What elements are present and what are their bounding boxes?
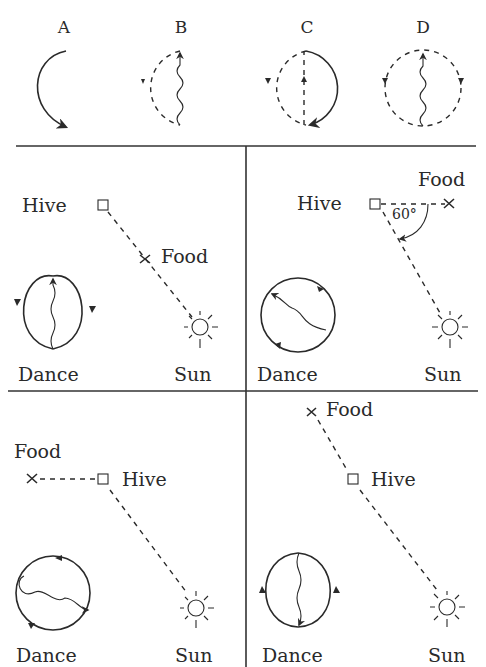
panel-a: A xyxy=(37,17,70,127)
hive-label: Hive xyxy=(297,192,342,214)
arrow-icon xyxy=(382,78,388,84)
panel-label-a: A xyxy=(57,17,71,37)
hive-label: Hive xyxy=(371,468,416,490)
dashed-left-c xyxy=(277,51,306,125)
food-hive-line xyxy=(318,420,347,470)
dance-label: Dance xyxy=(18,363,79,385)
dance-arc-a xyxy=(37,51,66,127)
dance-label: Dance xyxy=(16,644,77,666)
sun-icon xyxy=(432,311,468,348)
dance-figure xyxy=(259,553,340,627)
dance-figure xyxy=(14,276,96,349)
dance-figure xyxy=(16,555,90,630)
panel-c: C xyxy=(265,17,338,125)
food-label: Food xyxy=(418,168,465,190)
arrow-icon xyxy=(458,78,464,84)
sun-icon xyxy=(430,591,465,627)
quadrant-top-left: Hive Food Sun Dance xyxy=(14,194,218,385)
waggle-run-b xyxy=(177,53,183,125)
food-label: Food xyxy=(326,398,373,420)
arrow-icon xyxy=(141,79,145,84)
arrow-icon xyxy=(89,306,96,313)
panel-label-c: C xyxy=(300,17,313,37)
sun-label: Sun xyxy=(175,644,213,666)
hive-label: Hive xyxy=(22,194,67,216)
panel-label-d: D xyxy=(416,17,430,37)
bee-dance-diagram: A B C D Hive Food Sun xyxy=(0,0,486,667)
hive-icon xyxy=(98,474,108,484)
panel-b: B xyxy=(141,17,187,125)
dashed-return-b xyxy=(151,51,180,125)
arrow-icon xyxy=(14,299,21,306)
hive-icon xyxy=(348,474,358,484)
sun-icon xyxy=(184,311,218,348)
food-marker-icon xyxy=(140,255,150,263)
sun-icon xyxy=(180,591,214,628)
arrow-icon xyxy=(333,586,340,593)
arrow-icon xyxy=(28,623,35,629)
food-marker-icon xyxy=(27,474,37,483)
sun-label: Sun xyxy=(428,644,466,666)
arrow-icon xyxy=(259,586,266,593)
hive-sun-line xyxy=(383,212,440,313)
food-marker-icon xyxy=(444,199,454,208)
waggle-run-d xyxy=(420,54,426,126)
dance-label: Dance xyxy=(262,644,323,666)
dance-label: Dance xyxy=(257,363,318,385)
hive-icon xyxy=(98,200,108,210)
panel-label-b: B xyxy=(175,17,188,37)
food-label: Food xyxy=(14,440,61,462)
food-marker-icon xyxy=(307,408,316,416)
quadrant-bottom-right: Food Hive Sun Dance xyxy=(259,398,466,666)
sun-label: Sun xyxy=(174,363,212,385)
solid-right-c xyxy=(306,51,338,125)
panel-d: D xyxy=(382,17,464,126)
food-label: Food xyxy=(161,245,208,267)
hive-sun-line xyxy=(110,490,187,593)
hive-label: Hive xyxy=(122,468,167,490)
arrow-icon xyxy=(301,76,307,82)
dance-figure xyxy=(261,278,335,352)
hive-icon xyxy=(370,199,380,209)
hive-sun-line xyxy=(360,490,437,590)
angle-label: 60° xyxy=(392,206,417,222)
quadrant-bottom-left: Food Hive Sun Dance xyxy=(14,440,214,666)
arrow-icon xyxy=(265,78,271,84)
sun-label: Sun xyxy=(424,363,462,385)
quadrant-top-right: Hive Food 60° Sun Dance xyxy=(257,168,468,385)
